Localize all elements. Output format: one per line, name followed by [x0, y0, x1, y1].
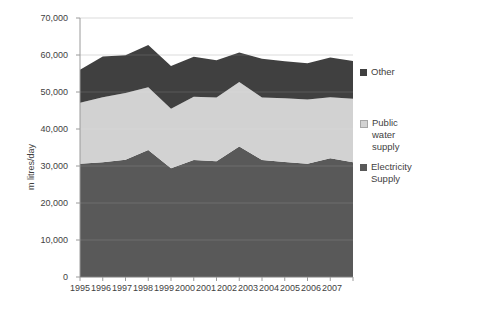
legend-label-electricity-line2: Supply — [371, 173, 400, 184]
legend-swatch-other — [360, 69, 367, 76]
legend-item-electricity-supply: Electricity Supply — [360, 161, 412, 185]
legend-label-public-line2: water — [372, 129, 395, 140]
legend-label-public-water-supply: Public water supply — [372, 117, 399, 153]
legend-item-public-water-supply: Public water supply — [360, 117, 399, 153]
legend-swatch-public-water-supply — [360, 120, 368, 128]
plot-area — [0, 0, 489, 314]
legend-label-public-line1: Public — [372, 117, 398, 128]
legend-label-electricity-supply: Electricity Supply — [371, 161, 412, 185]
legend-swatch-electricity-supply — [360, 164, 367, 171]
legend-label-other: Other — [371, 66, 395, 78]
legend-label-public-line3: supply — [372, 141, 399, 152]
x-tick-label: 2007 — [312, 283, 352, 293]
legend-item-other: Other — [360, 66, 395, 78]
stacked-area-chart: m litres/day 70,000 60,000 50,000 40,000… — [0, 0, 489, 314]
legend-label-electricity-line1: Electricity — [371, 161, 412, 172]
